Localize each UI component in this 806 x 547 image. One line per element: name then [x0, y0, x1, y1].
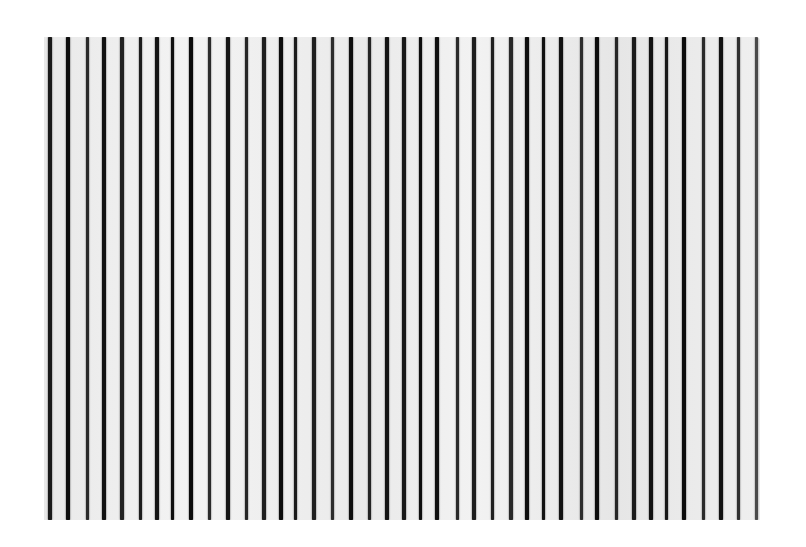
- dark-stripe: [139, 37, 142, 520]
- dark-stripe: [331, 37, 334, 520]
- dark-stripe: [719, 37, 723, 520]
- dark-stripe: [682, 37, 686, 520]
- dark-stripe: [155, 37, 159, 520]
- dark-stripe: [525, 37, 529, 520]
- dark-stripe: [262, 37, 266, 520]
- dark-stripe: [702, 37, 705, 520]
- dark-stripe: [86, 37, 89, 520]
- dark-stripe: [279, 37, 283, 520]
- dark-stripe: [48, 37, 52, 520]
- dark-stripe: [349, 37, 353, 520]
- image-canvas: [0, 0, 806, 547]
- dark-stripe: [294, 37, 297, 520]
- dark-stripe: [665, 37, 668, 520]
- dark-stripe: [245, 37, 248, 520]
- dark-stripe: [208, 37, 211, 520]
- dark-stripe: [542, 37, 545, 520]
- dark-stripe: [385, 37, 389, 520]
- dark-stripe: [368, 37, 371, 520]
- dark-stripe: [312, 37, 316, 520]
- dark-stripe: [632, 37, 636, 520]
- dark-stripe: [120, 37, 124, 520]
- dark-stripe: [419, 37, 422, 520]
- dark-stripe: [737, 37, 740, 520]
- dark-stripe: [226, 37, 230, 520]
- dark-stripe: [435, 37, 439, 520]
- dark-stripe: [102, 37, 106, 520]
- dark-stripe: [595, 37, 599, 520]
- dark-stripe: [171, 37, 174, 520]
- dark-stripe: [755, 37, 758, 520]
- dark-stripe: [559, 37, 563, 520]
- dark-stripe: [189, 37, 193, 520]
- dark-stripe: [66, 37, 70, 520]
- dark-stripe: [509, 37, 513, 520]
- dark-stripe: [649, 37, 653, 520]
- dark-stripe: [402, 37, 406, 520]
- dark-stripe: [580, 37, 583, 520]
- dark-stripe: [472, 37, 476, 520]
- line-grating-pattern: [44, 37, 760, 520]
- dark-stripe: [456, 37, 459, 520]
- dark-stripe: [615, 37, 618, 520]
- dark-stripe: [491, 37, 494, 520]
